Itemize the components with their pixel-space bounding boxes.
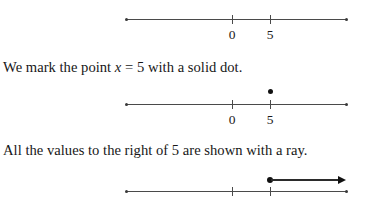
tick-five <box>270 187 271 196</box>
axis-line <box>126 104 347 105</box>
caption-solid-dot: We mark the point x = 5 with a solid dot… <box>3 60 242 75</box>
ray-segment <box>271 179 340 181</box>
axis-line <box>126 19 347 20</box>
numberline-plain: 0 5 <box>0 0 388 46</box>
tick-label-five: 5 <box>260 28 280 42</box>
caption-text-before-variable: We mark the point <box>3 59 115 75</box>
axis-right-endpoint <box>345 190 348 193</box>
tick-label-zero: 0 <box>222 28 242 42</box>
figure-canvas: 0 5 We mark the point x = 5 with a solid… <box>0 0 388 202</box>
tick-label-five: 5 <box>260 113 280 127</box>
axis-left-endpoint <box>125 103 128 106</box>
axis-right-endpoint <box>345 103 348 106</box>
axis-left-endpoint <box>125 18 128 21</box>
axis-right-endpoint <box>345 18 348 21</box>
tick-five <box>270 100 271 109</box>
numberline-point: 0 5 <box>0 85 388 131</box>
caption-ray-text: All the values to the right of 5 are sho… <box>3 142 308 158</box>
tick-label-zero: 0 <box>222 113 242 127</box>
axis-line <box>126 191 347 192</box>
axis-left-endpoint <box>125 190 128 193</box>
caption-ray: All the values to the right of 5 are sho… <box>3 143 308 158</box>
solid-dot-at-five <box>268 89 273 94</box>
tick-zero <box>232 15 233 24</box>
ray-arrowhead-icon <box>338 176 346 184</box>
caption-text-after-variable: = 5 with a solid dot. <box>121 59 242 75</box>
tick-zero <box>232 187 233 196</box>
numberline-ray <box>0 170 388 202</box>
tick-zero <box>232 100 233 109</box>
tick-five <box>270 15 271 24</box>
